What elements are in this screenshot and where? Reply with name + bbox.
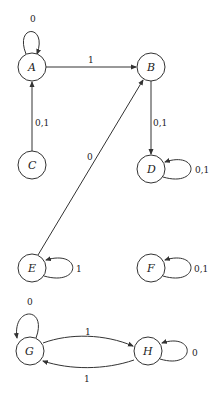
svg-text:0: 0 [192, 348, 198, 358]
state-node-a: A [18, 53, 46, 81]
edge-d-d: 0,1 [163, 160, 209, 179]
svg-text:A: A [27, 61, 36, 74]
svg-text:1: 1 [85, 327, 91, 337]
svg-text:0,1: 0,1 [194, 264, 208, 274]
state-node-c: C [18, 151, 46, 179]
svg-text:0: 0 [27, 297, 33, 307]
svg-text:C: C [28, 159, 37, 172]
svg-text:0,1: 0,1 [195, 165, 209, 175]
edge-a-b: 1 [46, 55, 136, 67]
edge-e-e: 1 [44, 258, 82, 278]
edge-g-h: 1 [43, 327, 133, 346]
state-node-g: G [16, 337, 44, 365]
svg-text:0,1: 0,1 [153, 118, 167, 128]
state-node-h: H [134, 337, 162, 365]
svg-text:D: D [146, 163, 156, 176]
svg-text:B: B [146, 61, 155, 74]
svg-text:0: 0 [30, 14, 36, 24]
svg-text:F: F [146, 262, 155, 275]
edge-a-a: 0 [23, 14, 39, 54]
state-node-e: E [18, 254, 46, 282]
edge-g-g: 0 [17, 297, 39, 338]
state-node-f: F [137, 254, 165, 282]
edge-c-a: 0,1 [32, 82, 49, 151]
state-node-d: D [137, 155, 165, 183]
svg-text:1: 1 [88, 55, 94, 65]
svg-text:0,1: 0,1 [35, 118, 49, 128]
edge-h-g: 1 [43, 360, 134, 384]
svg-text:1: 1 [84, 374, 90, 384]
svg-text:G: G [25, 345, 34, 358]
svg-text:1: 1 [76, 264, 82, 274]
edge-f-f: 0,1 [163, 258, 208, 278]
svg-text:0: 0 [87, 152, 93, 162]
edge-b-d: 0,1 [151, 81, 167, 154]
edge-h-h: 0 [160, 341, 198, 361]
edge-e-b: 0 [38, 80, 143, 255]
svg-text:H: H [142, 345, 153, 358]
state-diagram: 0 1 0,1 0,1 0,1 0 1 0,1 0 1 1 0 [0, 0, 219, 396]
state-node-b: B [137, 53, 165, 81]
svg-text:E: E [27, 262, 36, 275]
